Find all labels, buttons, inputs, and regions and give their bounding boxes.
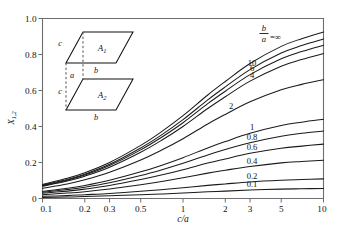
x-tick-label-6: 3 (248, 204, 253, 214)
parameter-fraction-label: b a =∞ (260, 23, 281, 44)
x-tick-label-5: 2 (223, 204, 228, 214)
x-axis-title: c/a (177, 213, 189, 224)
svg-text:X1,2: X1,2 (6, 110, 17, 125)
x-tick-label-1: 0.2 (79, 204, 91, 214)
curve-label-0.8: 0.8 (247, 132, 258, 142)
parameter-numerator: b (262, 23, 267, 33)
view-factor-chart: 1064210.80.60.40.20.1 00.20.40.60.81.0 0… (0, 0, 341, 242)
y-axis-title: X1,2 (6, 110, 17, 125)
inset-label-c-top: c (58, 39, 62, 48)
x-tick-label-3: 0.5 (135, 204, 147, 214)
inset-area-label-bottom: A2 (97, 90, 108, 101)
curve-0.1 (43, 188, 324, 197)
y-tick-label-0: 0 (32, 194, 37, 204)
x-tick-label-8: 10 (317, 204, 327, 214)
curve-inf (43, 32, 324, 184)
parameter-denominator: a (262, 34, 266, 44)
x-tick-label-group: 0.10.20.30.5123510 (41, 204, 327, 214)
curve-label-0.6: 0.6 (247, 142, 258, 152)
y-tick-label-3: 0.6 (25, 86, 37, 96)
parameter-equals-infinity: =∞ (270, 32, 281, 42)
inset-label-b-bottom: b (94, 113, 98, 122)
x-tick-label-0: 0.1 (41, 204, 53, 214)
curve-label-2: 2 (229, 101, 233, 111)
inset-diagram: c c a b b A1 A2 (58, 32, 133, 122)
plot-frame (43, 19, 324, 199)
curve-label-group: 1064210.80.60.40.20.1 (229, 58, 258, 189)
x-tick-label-7: 5 (279, 204, 284, 214)
inset-label-c-bottom: c (58, 87, 62, 96)
curve-group (43, 32, 324, 197)
y-tick-label-group: 00.20.40.60.81.0 (25, 14, 37, 204)
inset-label-b-top: b (94, 66, 98, 75)
y-tick-label-1: 0.2 (25, 158, 37, 168)
x-axis-ticks (43, 199, 324, 203)
y-tick-label-4: 0.8 (25, 50, 37, 60)
y-tick-label-5: 1.0 (25, 14, 37, 24)
y-tick-label-2: 0.4 (25, 122, 37, 132)
curve-label-4: 4 (250, 70, 255, 80)
curve-label-0.4: 0.4 (247, 156, 258, 166)
inset-area-label-top: A1 (97, 43, 107, 54)
curve-label-0.1: 0.1 (247, 179, 258, 189)
x-tick-label-2: 0.3 (104, 204, 116, 214)
chart-container: 1064210.80.60.40.20.1 00.20.40.60.81.0 0… (0, 0, 341, 242)
curve-2 (43, 80, 324, 189)
inset-label-a-gap: a (70, 71, 74, 80)
y-axis-ticks (39, 19, 43, 199)
curve-0.8 (43, 131, 324, 192)
x-tick-label-4: 1 (181, 204, 186, 214)
y-axis-title-sub: 1,2 (10, 110, 17, 119)
